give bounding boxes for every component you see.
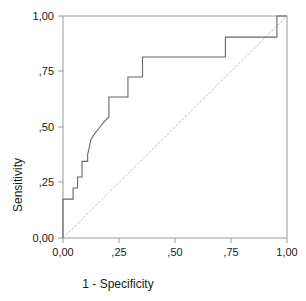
x-tick-label-2: ,50	[167, 246, 182, 258]
y-tick-label-3: ,75	[39, 65, 54, 77]
x-tick-label-1: ,25	[111, 246, 126, 258]
x-axis-title: 1 - Specificity	[82, 277, 153, 291]
y-tick-label-4: 1,00	[33, 10, 54, 22]
x-tick-label-3: ,75	[223, 246, 238, 258]
y-tick-label-1: ,25	[39, 176, 54, 188]
y-tick-label-2: ,50	[39, 121, 54, 133]
y-tick-label-0: 0,00	[33, 232, 54, 244]
x-tick-label-4: 1,00	[276, 246, 297, 258]
roc-chart-figure: 1,00 ,75 ,50 ,25 0,00 0,00 ,25 ,50 ,75 1…	[0, 0, 306, 301]
chart-background	[0, 0, 306, 301]
y-axis-title: Sensitivity	[11, 158, 25, 212]
x-tick-label-0: 0,00	[52, 246, 73, 258]
chart-canvas: 1,00 ,75 ,50 ,25 0,00 0,00 ,25 ,50 ,75 1…	[0, 0, 306, 301]
